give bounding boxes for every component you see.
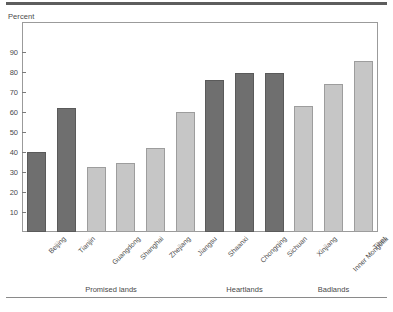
group-label-heartlands: Heartlands bbox=[226, 285, 262, 294]
group-label-promised-lands: Promised lands bbox=[85, 285, 137, 294]
y-axis-tick-label: 40 bbox=[2, 148, 18, 157]
bar-shaanxi bbox=[205, 80, 224, 232]
x-axis-label-zhejiang: Zhejiang bbox=[167, 235, 191, 259]
y-axis-unit-label: Percent bbox=[8, 12, 35, 21]
bar-chongqing bbox=[235, 73, 254, 232]
x-axis-label-shanghai: Shanghai bbox=[138, 235, 164, 261]
group-label-badlands: Badlands bbox=[318, 285, 349, 294]
y-axis-tick-label: 90 bbox=[2, 48, 18, 57]
y-axis-tick-label: 10 bbox=[2, 208, 18, 217]
x-axis-label-sichuan: Sichuan bbox=[286, 235, 309, 258]
top-divider-rule bbox=[6, 2, 387, 5]
x-axis-label-tianjin: Tianjin bbox=[76, 235, 95, 254]
y-axis-tick-label: 80 bbox=[2, 68, 18, 77]
bar-tibet bbox=[354, 61, 373, 232]
x-axis-label-guangdong: Guangdong bbox=[111, 235, 142, 266]
y-axis-tick-label: 70 bbox=[2, 88, 18, 97]
bar-tianjin bbox=[57, 108, 76, 232]
bar-guangdong bbox=[87, 167, 106, 232]
bar-jiangsu bbox=[176, 112, 195, 232]
y-axis-tick-label: 50 bbox=[2, 128, 18, 137]
y-axis-tick-label: 20 bbox=[2, 188, 18, 197]
x-axis-label-chongqing: Chongqing bbox=[258, 235, 287, 264]
bar-zhejiang bbox=[146, 148, 165, 232]
bar-inner-mongolia bbox=[324, 84, 343, 232]
x-axis-label-shaanxi: Shaanxi bbox=[226, 235, 249, 258]
bar-xinjiang bbox=[294, 106, 313, 232]
bars-layer bbox=[22, 22, 378, 232]
y-axis-tick-label: 30 bbox=[2, 168, 18, 177]
bar-chart-figure: Percent 102030405060708090 BeijingTianji… bbox=[0, 0, 393, 312]
x-axis-label-beijing: Beijing bbox=[47, 235, 67, 255]
bottom-divider-rule bbox=[6, 297, 387, 298]
bar-beijing bbox=[27, 152, 46, 232]
y-axis-tick-label: 60 bbox=[2, 108, 18, 117]
bar-shanghai bbox=[116, 163, 135, 232]
x-axis-label-jiangsu: Jiangsu bbox=[196, 235, 218, 257]
x-axis-label-xinjiang: Xinjiang bbox=[315, 235, 338, 258]
bar-sichuan bbox=[265, 73, 284, 232]
